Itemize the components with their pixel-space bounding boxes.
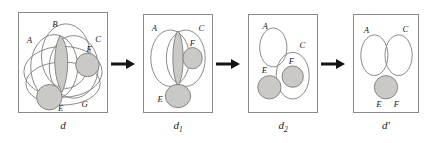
arrow-right-icon [216,57,240,71]
region-label-A: A [26,35,33,45]
panel-d1-caption: d1 [143,120,213,134]
ellipse-A [361,35,388,76]
transform-arrow-1 [111,57,135,71]
panel-d-canvas: B A C F E G [19,13,107,112]
region-label-F: F [288,56,295,66]
region-label-C: C [95,34,101,44]
panel-d2-canvas: A C F E [249,15,317,112]
shaded-lens-AC [173,31,183,85]
transform-arrow-2 [216,57,240,71]
shaded-circle-F [282,66,303,87]
diagram-panel-d1: A C F E [143,14,213,113]
region-label-A: A [363,25,370,35]
ellipse-C [385,35,412,76]
caption-subscript: 2 [284,125,288,134]
region-label-E: E [57,103,64,112]
region-label-E: E [375,99,382,109]
shaded-circle-F [183,47,202,68]
caption-text: d [60,119,66,131]
caption-subscript: 1 [179,125,183,134]
shaded-circle-E [258,76,281,99]
region-label-C: C [198,23,204,33]
region-label-C: C [300,40,306,50]
caption-prime: ′ [388,119,390,131]
set-diagram-figure: B A C F E G d A C F [0,0,434,143]
panel-dprime-canvas: A C E F [354,15,418,112]
region-label-E: E [157,94,164,104]
shaded-central-lens [55,36,68,93]
diagram-panel-d2: A C F E [248,14,318,113]
ellipse-A [260,28,287,67]
panel-dprime-caption: d′ [353,120,419,131]
region-label-C: C [402,24,408,34]
arrow-right-icon [111,57,135,71]
region-label-F: F [393,99,400,109]
region-label-F: F [189,38,196,48]
panel-d1-canvas: A C F E [144,15,212,112]
diagram-panel-dprime: A C E F [353,14,419,113]
region-label-E: E [261,65,268,75]
panel-d-caption: d [18,120,108,131]
transform-arrow-3 [321,57,345,71]
arrow-right-icon [321,57,345,71]
shaded-circle-E [165,84,190,107]
region-label-A: A [151,23,158,33]
shaded-circle-EF [374,76,397,99]
shaded-circle-F [76,53,99,76]
region-label-B: B [52,19,58,29]
region-label-F: F [85,44,92,54]
panel-d2-caption: d2 [248,120,318,134]
diagram-panel-d: B A C F E G [18,12,108,113]
region-label-G: G [82,99,89,109]
region-label-A: A [262,21,269,31]
